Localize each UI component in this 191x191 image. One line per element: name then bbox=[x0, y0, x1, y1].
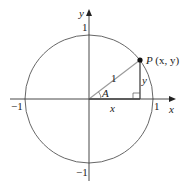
angle-arc bbox=[99, 92, 102, 99]
x-axis-label: x bbox=[168, 103, 174, 115]
y-tick-positive: 1 bbox=[82, 21, 88, 33]
x-axis-arrow-icon bbox=[169, 96, 176, 102]
opposite-label: y bbox=[141, 74, 147, 86]
diagram-canvas: P (x, y) 1 y x A y x 1 −1 1 −1 bbox=[0, 0, 191, 191]
y-tick-negative: −1 bbox=[76, 166, 88, 178]
y-axis-label: y bbox=[78, 7, 84, 19]
x-tick-negative: −1 bbox=[11, 100, 23, 112]
point-label: P (x, y) bbox=[145, 54, 179, 67]
unit-circle-diagram: P (x, y) 1 y x A y x 1 −1 1 −1 bbox=[0, 0, 191, 191]
adjacent-label: x bbox=[109, 102, 115, 114]
hypotenuse-label: 1 bbox=[111, 72, 117, 84]
point-p bbox=[137, 57, 142, 62]
x-tick-positive: 1 bbox=[154, 100, 160, 112]
angle-label: A bbox=[101, 87, 109, 99]
right-angle-marker bbox=[133, 93, 140, 99]
y-axis-arrow-icon bbox=[86, 9, 92, 16]
